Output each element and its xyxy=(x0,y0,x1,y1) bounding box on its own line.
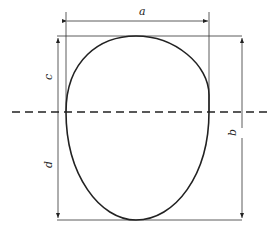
label-a: a xyxy=(139,5,146,18)
egg-profile-diagram: a c d b xyxy=(0,0,273,233)
label-d: d xyxy=(42,161,55,168)
bounding-box xyxy=(57,12,242,220)
egg-shape xyxy=(66,36,209,220)
label-c: c xyxy=(42,74,55,80)
label-b: b xyxy=(226,129,239,136)
